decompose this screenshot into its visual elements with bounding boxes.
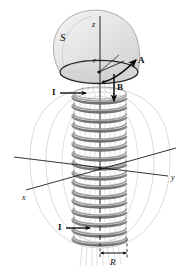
origin-dot <box>99 167 102 170</box>
surface-s-shape <box>53 10 139 83</box>
vector-a-origin-dot <box>102 81 105 84</box>
z-axis-label: z <box>92 21 95 29</box>
surface-s-label: S <box>60 32 66 43</box>
y-axis-label: y <box>171 174 175 182</box>
radius-r-label: r <box>93 57 96 65</box>
radius-R-label: R <box>110 258 116 267</box>
x-axis-label: x <box>22 194 26 202</box>
figure-canvas <box>0 0 189 276</box>
current-bottom-label: I <box>58 223 62 232</box>
vector-a-label: A <box>138 56 145 65</box>
solenoid-figure: S z r A B I I x y R <box>0 0 189 276</box>
current-top-label: I <box>52 88 56 97</box>
vector-b-label: B <box>117 83 123 92</box>
